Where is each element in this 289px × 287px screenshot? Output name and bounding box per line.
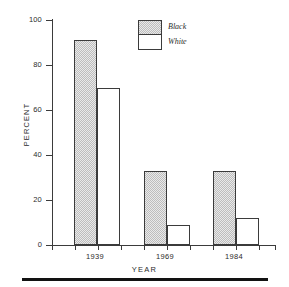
bottom-rule bbox=[22, 278, 268, 281]
bar-black-1984 bbox=[213, 171, 236, 245]
bar-chart-figure: 100 80 60 40 20 0 1939 1969 1984 PERCENT… bbox=[0, 0, 289, 287]
x-tick-9 bbox=[259, 245, 260, 250]
bar-white-1984 bbox=[236, 218, 259, 245]
x-category-label-1969: 1969 bbox=[145, 252, 185, 261]
x-category-label-1939: 1939 bbox=[75, 252, 115, 261]
legend-row-white: White bbox=[138, 35, 210, 50]
y-tick-label-20: 20 bbox=[8, 196, 42, 203]
x-tick-4 bbox=[144, 245, 145, 250]
y-tick-label-80: 80 bbox=[8, 61, 42, 68]
x-tick-7 bbox=[213, 245, 214, 250]
y-axis-title: PERCENT bbox=[22, 95, 31, 155]
x-axis-line bbox=[52, 245, 276, 246]
bars-layer bbox=[52, 20, 276, 245]
x-tick-3 bbox=[121, 245, 122, 250]
x-tick-2 bbox=[98, 245, 99, 250]
bar-black-1939 bbox=[74, 40, 97, 245]
y-tick-label-0: 0 bbox=[8, 241, 42, 248]
x-tick-8 bbox=[236, 245, 237, 250]
x-tick-10 bbox=[275, 245, 276, 250]
x-tick-6 bbox=[190, 245, 191, 250]
legend-swatch-white bbox=[138, 35, 162, 50]
x-tick-1 bbox=[75, 245, 76, 250]
x-category-label-1984: 1984 bbox=[214, 252, 254, 261]
legend: Black White bbox=[138, 20, 210, 50]
bar-black-1969 bbox=[144, 171, 167, 245]
legend-swatch-black bbox=[138, 20, 162, 35]
x-axis-title: YEAR bbox=[0, 265, 289, 274]
bar-white-1969 bbox=[167, 225, 190, 245]
bar-white-1939 bbox=[97, 88, 120, 246]
legend-label-white: White bbox=[168, 37, 187, 46]
legend-label-black: Black bbox=[168, 22, 186, 31]
x-tick-5 bbox=[167, 245, 168, 250]
legend-row-black: Black bbox=[138, 20, 210, 35]
y-tick-label-100: 100 bbox=[8, 16, 42, 23]
x-tick-0 bbox=[52, 245, 53, 250]
